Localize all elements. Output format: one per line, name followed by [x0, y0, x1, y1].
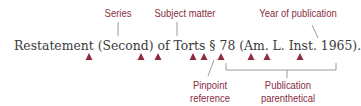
space-marker-icon — [138, 53, 145, 60]
space-marker-icon — [201, 53, 208, 60]
space-marker-icon — [297, 53, 304, 60]
space-marker-icon — [218, 53, 225, 60]
pinpoint-leader-line — [208, 60, 214, 76]
parenthetical-bracket — [226, 63, 336, 78]
space-markers — [86, 53, 304, 60]
space-marker-icon — [155, 53, 162, 60]
year-leader-line — [312, 25, 318, 38]
space-marker-icon — [86, 53, 93, 60]
space-marker-icon — [264, 53, 271, 60]
space-marker-icon — [190, 53, 197, 60]
space-marker-icon — [248, 53, 255, 60]
